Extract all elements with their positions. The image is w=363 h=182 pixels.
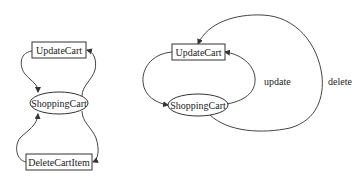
node-label: UpdateCart: [36, 45, 82, 56]
node-shoppingcart-left[interactable]: ShoppingCart: [30, 92, 88, 114]
left-diagram: UpdateCart ShoppingCart DeleteCartItem: [17, 42, 99, 170]
node-label: DeleteCartItem: [28, 157, 90, 168]
edge-update: [225, 52, 255, 104]
node-deletecartitem-left[interactable]: DeleteCartItem: [26, 154, 92, 170]
node-label: UpdateCart: [175, 47, 221, 58]
node-label: ShoppingCart: [31, 98, 87, 109]
edge-label-update: update: [264, 76, 291, 87]
node-label: ShoppingCart: [170, 100, 226, 111]
right-diagram: update delete UpdateCart ShoppingCart: [143, 15, 353, 131]
node-updatecart-left[interactable]: UpdateCart: [32, 42, 86, 58]
edge-label-delete: delete: [328, 76, 352, 87]
edge-updatecart-to-shoppingcart-right: [143, 52, 172, 105]
state-diagram-canvas: UpdateCart ShoppingCart DeleteCartItem u…: [0, 0, 363, 182]
node-updatecart-right[interactable]: UpdateCart: [172, 44, 225, 60]
node-shoppingcart-right[interactable]: ShoppingCart: [168, 94, 228, 116]
